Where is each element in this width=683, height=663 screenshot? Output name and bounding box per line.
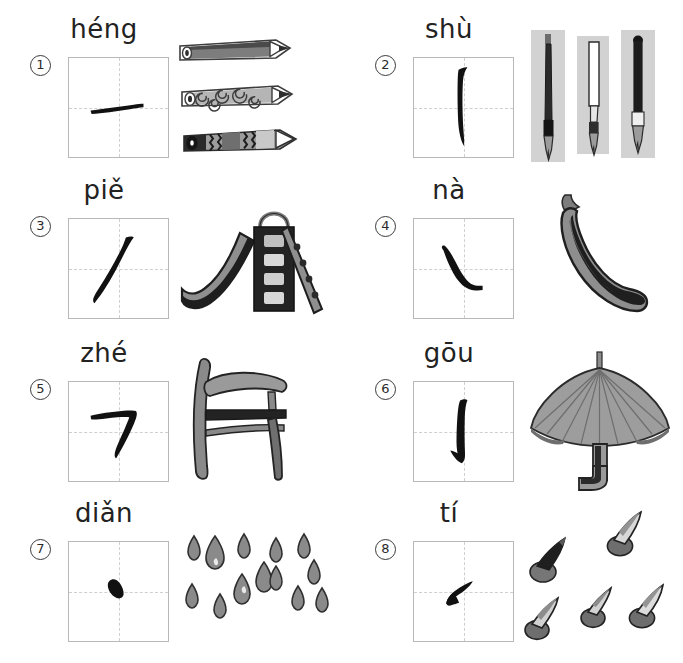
stroke-cell-dian: diǎn 7: [4, 498, 334, 658]
pinyin-label-ti: tí: [383, 498, 515, 528]
practice-grid-box-4[interactable]: [413, 218, 514, 319]
stroke-glyph-gou: [414, 382, 513, 481]
illustration-chili-pepper: [521, 183, 679, 331]
cell-index-5: 5: [30, 379, 51, 400]
practice-grid-box-1[interactable]: [68, 57, 169, 158]
practice-grid-box-5[interactable]: [68, 381, 169, 482]
illustration-pencils: [176, 22, 334, 170]
stroke-glyph-dian: [69, 542, 168, 641]
stroke-glyph-na: [414, 219, 513, 318]
worksheet-sheet: héng 1: [0, 0, 683, 663]
stroke-cell-zhe: zhé 5: [4, 338, 334, 498]
stroke-glyph-ti: [414, 542, 513, 641]
practice-grid-box-8[interactable]: [413, 541, 514, 642]
illustration-chair: [176, 346, 334, 494]
stroke-glyph-heng: [69, 58, 168, 157]
cell-index-1: 1: [30, 55, 51, 76]
illustration-pushpins: [521, 506, 679, 654]
stroke-cell-pie: piě 3: [4, 175, 334, 335]
stroke-cell-ti: tí 8: [349, 498, 679, 658]
pinyin-label-zhe: zhé: [38, 338, 170, 368]
cell-index-2: 2: [375, 55, 396, 76]
illustration-brush-pens: [521, 22, 679, 170]
practice-grid-box-2[interactable]: [413, 57, 514, 158]
practice-grid-box-3[interactable]: [68, 218, 169, 319]
cell-index-7: 7: [30, 539, 51, 560]
practice-grid-box-7[interactable]: [68, 541, 169, 642]
practice-grid-box-6[interactable]: [413, 381, 514, 482]
pinyin-label-pie: piě: [38, 175, 170, 205]
pinyin-label-heng: héng: [38, 14, 170, 44]
illustration-raindrops: [176, 506, 334, 654]
stroke-cell-heng: héng 1: [4, 14, 334, 174]
illustration-umbrella: [521, 346, 679, 494]
pinyin-label-dian: diǎn: [38, 498, 170, 528]
stroke-cell-na: nà 4: [349, 175, 679, 335]
cell-index-6: 6: [375, 379, 396, 400]
stroke-cell-gou: gōu 6: [349, 338, 679, 498]
pinyin-label-gou: gōu: [383, 338, 515, 368]
cell-index-3: 3: [30, 216, 51, 237]
stroke-cell-shu: shù 2: [349, 14, 679, 174]
stroke-glyph-zhe: [69, 382, 168, 481]
stroke-glyph-shu: [414, 58, 513, 157]
stroke-glyph-pie: [69, 219, 168, 318]
cell-index-4: 4: [375, 216, 396, 237]
pinyin-label-shu: shù: [383, 14, 515, 44]
illustration-playground-slide: [176, 183, 334, 331]
cell-index-8: 8: [375, 539, 396, 560]
pinyin-label-na: nà: [383, 175, 515, 205]
